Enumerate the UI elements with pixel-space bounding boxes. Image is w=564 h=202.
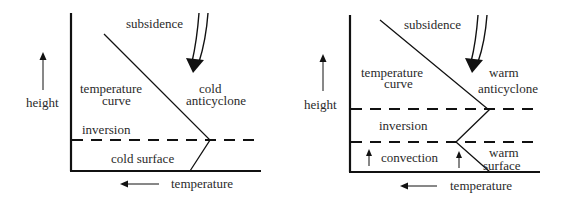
temperature-axis-label: temperature <box>450 178 512 193</box>
surface-label: cold surface <box>111 151 174 166</box>
surface-label-2: surface <box>483 158 521 173</box>
height-axis-label: height <box>304 97 337 112</box>
temperature-curve-label-2: curve <box>384 76 413 91</box>
convection-label: convection <box>381 150 439 165</box>
subsidence-label: subsidence <box>126 16 183 31</box>
subsidence-arrow-icon <box>186 13 208 73</box>
height-axis-label: height <box>26 95 59 110</box>
temperature-axis-label: temperature <box>171 176 233 191</box>
anticyclone-type-label-2: anticyclone <box>186 93 246 108</box>
temperature-curve-label-2: curve <box>102 93 131 108</box>
anticyclone-type-label-1: warm <box>489 65 519 80</box>
convection-arrow-left-icon <box>366 149 372 166</box>
subsidence-arrow-icon <box>465 15 487 73</box>
anticyclone-diagram: subsidence temperature curve cold anticy… <box>0 0 564 202</box>
subsidence-label: subsidence <box>404 17 461 32</box>
temperature-arrow-icon <box>120 181 159 188</box>
height-arrow-icon <box>40 52 47 90</box>
convection-arrow-right-icon <box>456 151 462 168</box>
temperature-arrow-icon <box>400 183 437 190</box>
panel-warm-anticyclone: subsidence temperature curve warm anticy… <box>304 15 540 193</box>
anticyclone-type-label-2: anticyclone <box>478 81 538 96</box>
panel-cold-anticyclone: subsidence temperature curve cold anticy… <box>26 13 261 191</box>
height-arrow-icon <box>320 54 327 91</box>
inversion-label: inversion <box>379 118 428 133</box>
inversion-label: inversion <box>82 122 131 137</box>
